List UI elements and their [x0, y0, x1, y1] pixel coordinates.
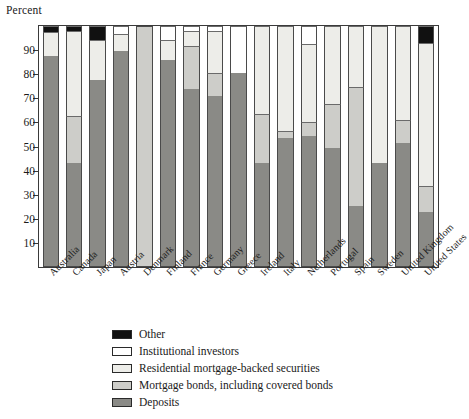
- bar-segment: [301, 44, 317, 122]
- legend-item: Other: [112, 326, 432, 343]
- bar-segment: [418, 186, 434, 211]
- bar-column: [136, 26, 152, 267]
- bar-segment: [277, 131, 293, 138]
- bar-segment: [301, 26, 317, 44]
- bar-column: [230, 26, 246, 267]
- legend-swatch-icon: [112, 347, 132, 356]
- legend-item-label: Deposits: [139, 397, 179, 409]
- bar-segment: [160, 26, 176, 40]
- bar-column: [348, 26, 364, 267]
- chart-plot-area: [39, 26, 438, 267]
- bar-segment: [371, 26, 387, 163]
- legend-swatch-icon: [112, 381, 132, 390]
- bar-segment: [160, 40, 176, 59]
- chart-plot-frame: 102030405060708090: [38, 25, 439, 268]
- bar-segment: [136, 26, 152, 267]
- bar-segment: [277, 26, 293, 131]
- bar-column: [418, 26, 434, 267]
- legend-swatch-icon: [112, 364, 132, 373]
- bar-segment: [160, 60, 176, 267]
- bar-column: [183, 26, 199, 267]
- y-axis-tick-label: 60: [24, 116, 36, 128]
- bar-segment: [183, 26, 199, 31]
- bar-segment: [113, 26, 129, 34]
- bar-segment: [348, 26, 364, 87]
- legend-swatch-icon: [112, 330, 132, 339]
- legend-item: Deposits: [112, 394, 432, 411]
- bar-segment: [183, 31, 199, 47]
- bar-segment: [66, 26, 82, 31]
- y-axis-tick-label: 20: [24, 213, 36, 225]
- bar-column: [113, 26, 129, 267]
- bar-segment: [43, 26, 59, 32]
- bar-segment: [89, 80, 105, 267]
- bar-segment: [207, 96, 223, 267]
- bar-column: [254, 26, 270, 267]
- bar-segment: [66, 116, 82, 163]
- y-axis-tick-label: 90: [24, 44, 36, 56]
- bar-segment: [89, 26, 105, 40]
- bar-segment: [395, 120, 411, 143]
- legend-item-label: Mortgage bonds, including covered bonds: [139, 380, 333, 392]
- bar-segment: [113, 34, 129, 51]
- bar-segment: [230, 26, 246, 73]
- bar-column: [277, 26, 293, 267]
- bar-segment: [207, 31, 223, 73]
- y-axis-tick-label: 10: [24, 237, 36, 249]
- bar-segment: [66, 31, 82, 117]
- legend-item-label: Residential mortgage-backed securities: [139, 363, 320, 375]
- bar-column: [371, 26, 387, 267]
- bar-segment: [43, 56, 59, 267]
- bar-segment: [301, 136, 317, 267]
- bar-segment: [301, 122, 317, 135]
- bar-column: [207, 26, 223, 267]
- bar-segment: [371, 163, 387, 267]
- y-axis-tick-label: 30: [24, 189, 36, 201]
- bar-segment: [183, 89, 199, 267]
- bar-column: [395, 26, 411, 267]
- legend-swatch-icon: [112, 398, 132, 407]
- bar-segment: [113, 51, 129, 267]
- bar-segment: [43, 32, 59, 56]
- bar-column: [324, 26, 340, 267]
- legend-item-label: Institutional investors: [139, 346, 239, 358]
- bar-segment: [183, 46, 199, 88]
- legend-item: Residential mortgage-backed securities: [112, 360, 432, 377]
- bar-column: [43, 26, 59, 267]
- y-axis-tick-label: 80: [24, 68, 36, 80]
- chart-legend: OtherInstitutional investorsResidential …: [112, 326, 432, 411]
- bar-segment: [254, 26, 270, 114]
- bar-column: [89, 26, 105, 267]
- bar-segment: [207, 26, 223, 31]
- bar-segment: [277, 138, 293, 267]
- bar-segment: [395, 26, 411, 120]
- bar-segment: [207, 73, 223, 96]
- bar-segment: [324, 26, 340, 104]
- bar-column: [160, 26, 176, 267]
- y-axis-tick-label: 70: [24, 92, 36, 104]
- x-axis-category-labels: AustraliaCanadaJapanAustriaDenmarkFinlan…: [38, 270, 439, 330]
- bar-segment: [348, 87, 364, 205]
- legend-item-label: Other: [139, 329, 165, 341]
- axis-unit-title: Percent: [6, 4, 42, 16]
- bar-segment: [324, 104, 340, 147]
- bar-column: [301, 26, 317, 267]
- bar-segment: [89, 40, 105, 80]
- y-axis-tick-label: 50: [24, 141, 36, 153]
- bar-segment: [418, 43, 434, 186]
- bar-segment: [254, 114, 270, 163]
- bar-segment: [418, 26, 434, 43]
- legend-item: Institutional investors: [112, 343, 432, 360]
- y-axis-tick-label: 40: [24, 165, 36, 177]
- bar-column: [66, 26, 82, 267]
- legend-item: Mortgage bonds, including covered bonds: [112, 377, 432, 394]
- bar-segment: [230, 73, 246, 267]
